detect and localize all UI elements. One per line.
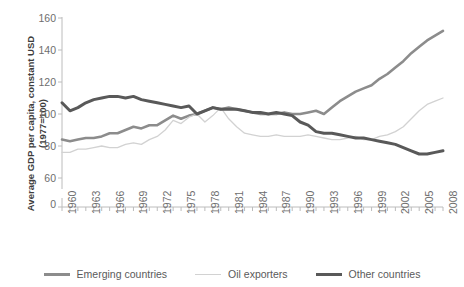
x-axis-tick-label: 1984 [257, 191, 269, 214]
legend-item[interactable]: Oil exporters [195, 268, 288, 280]
y-axis-tick-labels: 06080100120140160 [18, 0, 56, 287]
legend-item[interactable]: Other countries [316, 268, 421, 280]
legend-label: Emerging countries [77, 268, 167, 280]
y-axis-tick-label: 100 [38, 108, 56, 120]
x-axis-tick-label: 1993 [328, 191, 340, 214]
legend-color-swatch [44, 273, 70, 276]
y-axis-tick-label: 60 [44, 172, 56, 184]
x-axis-tick-label: 2005 [423, 191, 435, 214]
x-axis-tick-label: 1987 [280, 191, 292, 214]
legend-label: Other countries [349, 268, 421, 280]
x-axis-tick-label: 2002 [399, 191, 411, 214]
legend-color-swatch [316, 273, 342, 276]
y-axis-tick-label: 160 [38, 12, 56, 24]
x-axis-tick-label: 1999 [376, 191, 388, 214]
legend-item[interactable]: Emerging countries [44, 268, 167, 280]
x-axis-tick-label: 1963 [90, 191, 102, 214]
series-group [62, 31, 443, 154]
y-axis-tick-label: 120 [38, 76, 56, 88]
chart-legend: Emerging countriesOil exportersOther cou… [0, 264, 464, 284]
x-axis-tick-label: 1990 [304, 191, 316, 214]
legend-color-swatch [195, 274, 221, 275]
series-line [62, 98, 443, 152]
axes-group [58, 17, 443, 211]
x-axis-tick-label: 1960 [66, 191, 78, 214]
x-axis-tick-label: 1969 [137, 191, 149, 214]
x-axis-tick-label: 1981 [233, 191, 245, 214]
chart-container: Average GDP per capita, constant USD (19… [0, 0, 464, 287]
x-axis-tick-label: 1978 [209, 191, 221, 214]
legend-label: Oil exporters [228, 268, 288, 280]
x-axis-tick-label: 1975 [185, 191, 197, 214]
x-axis-tick-label: 1966 [114, 191, 126, 214]
y-axis-tick-label: 140 [38, 44, 56, 56]
x-axis-tick-label: 1996 [352, 191, 364, 214]
x-axis-tick-label: 1972 [161, 191, 173, 214]
x-axis-tick-label: 2008 [447, 191, 459, 214]
series-line [62, 31, 443, 141]
series-line [62, 96, 443, 154]
plot-area [0, 0, 464, 287]
y-axis-tick-label: 0 [50, 198, 56, 210]
y-axis-tick-label: 80 [44, 140, 56, 152]
